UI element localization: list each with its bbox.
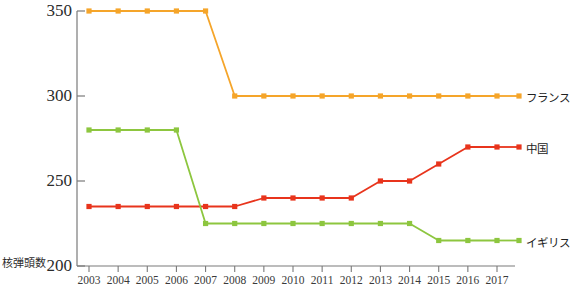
legend-item-2: 中国 [526,140,548,156]
data-point [145,127,150,132]
data-point [407,93,412,98]
data-point [261,195,266,200]
y-axis-ticks [77,11,85,266]
data-point [86,127,91,132]
data-point [174,127,179,132]
data-point [174,8,179,13]
data-point [465,93,470,98]
data-point [203,221,208,226]
legend-item-1: フランス [526,89,570,105]
data-point [203,204,208,209]
data-point [116,8,121,13]
axis-lines [77,11,515,266]
data-point [436,161,441,166]
y-tick-label: 350 [26,1,72,21]
data-point [290,195,295,200]
data-point [232,93,237,98]
series-2 [86,144,499,209]
data-point [145,204,150,209]
data-point [116,204,121,209]
data-point [349,221,354,226]
data-point [407,221,412,226]
data-point [378,93,383,98]
data-point [290,93,295,98]
legend-item-3: イギリス [526,234,570,250]
data-point [378,221,383,226]
series-1 [86,8,499,98]
data-point [407,178,412,183]
y-tick-label: 200 [26,256,72,276]
data-point [86,204,91,209]
data-point [86,8,91,13]
data-point [261,93,266,98]
data-point [261,221,266,226]
data-point [232,221,237,226]
data-point [145,8,150,13]
data-point [320,93,325,98]
data-point [290,221,295,226]
data-point [320,195,325,200]
data-point [116,127,121,132]
y-tick-label: 250 [26,171,72,191]
data-point [232,204,237,209]
series-3 [86,127,499,243]
x-axis-ticks [89,266,497,272]
data-point [174,204,179,209]
y-tick-label: 300 [26,86,72,106]
data-point [465,238,470,243]
data-point [465,144,470,149]
data-point [320,221,325,226]
data-point [349,93,354,98]
data-point [436,93,441,98]
data-point [436,238,441,243]
data-point [349,195,354,200]
x-tick-label: 2017 [480,274,514,286]
legend-markers [497,93,522,243]
data-point [203,8,208,13]
data-point [378,178,383,183]
